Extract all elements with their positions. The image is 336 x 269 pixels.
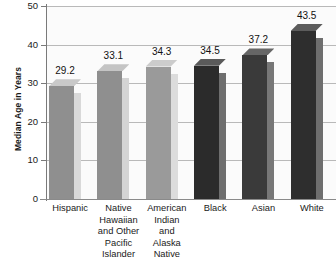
bar-side-face xyxy=(171,74,178,199)
bar-front-face xyxy=(194,66,219,199)
bar-chart: Median Age in Years 50403020100 29.233.1… xyxy=(0,0,336,269)
bar-front-face xyxy=(97,71,122,199)
plot-area: 50403020100 29.233.134.334.537.243.5 xyxy=(46,6,336,199)
bar-value-label: 33.1 xyxy=(91,50,135,61)
bar-front-face xyxy=(146,67,171,199)
bar-front-face xyxy=(291,31,316,199)
y-axis-line xyxy=(46,4,47,201)
bar-value-label: 37.2 xyxy=(236,34,280,45)
bar-front-face xyxy=(49,86,74,199)
gridline-50 xyxy=(46,6,336,7)
bar-value-label: 29.2 xyxy=(43,65,87,76)
bar-top-face xyxy=(97,64,129,71)
bar-top-face xyxy=(49,79,81,86)
bar-value-label: 34.5 xyxy=(188,45,232,56)
y-tick-label: 0 xyxy=(12,193,38,204)
x-axis-category-label: White xyxy=(282,203,336,215)
bar-top-face xyxy=(194,59,226,66)
y-tick-label: 40 xyxy=(12,39,38,50)
bar-top-face xyxy=(146,60,178,67)
bar[interactable] xyxy=(49,86,74,199)
y-tick-label: 20 xyxy=(12,116,38,127)
bar[interactable] xyxy=(194,66,219,199)
bar[interactable] xyxy=(291,31,316,199)
bar-front-face xyxy=(242,55,267,199)
bar-side-face xyxy=(219,73,226,199)
y-tick-label: 50 xyxy=(12,0,38,11)
bar-side-face xyxy=(122,78,129,199)
y-tick-label: 10 xyxy=(12,154,38,165)
bar-value-label: 34.3 xyxy=(140,46,184,57)
bar[interactable] xyxy=(146,67,171,199)
bar[interactable] xyxy=(97,71,122,199)
bar-side-face xyxy=(74,93,81,199)
bar-side-face xyxy=(267,62,274,199)
bar-value-label: 43.5 xyxy=(285,10,329,21)
y-tick-label: 30 xyxy=(12,77,38,88)
bar-top-face xyxy=(291,24,323,31)
bar[interactable] xyxy=(242,55,267,199)
bar-top-face xyxy=(242,48,274,55)
bar-side-face xyxy=(316,38,323,199)
x-axis-line xyxy=(40,199,336,200)
